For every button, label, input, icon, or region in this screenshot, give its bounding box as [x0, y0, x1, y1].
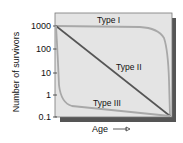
arrow-right-icon — [113, 127, 130, 131]
tick-1000: 1000 — [31, 21, 51, 31]
tick-1: 1 — [46, 90, 51, 100]
tick-0.1: 0.1 — [38, 112, 51, 122]
tick-100: 100 — [36, 44, 51, 54]
survivorship-chart: 1000 100 10 1 0.1 Type I Type II Type II… — [0, 0, 183, 143]
type2-label: Type II — [116, 62, 142, 72]
type1-label: Type I — [97, 15, 120, 25]
y-axis-title: Number of survivors — [11, 31, 21, 112]
type3-label: Type III — [93, 98, 121, 108]
tick-10: 10 — [41, 68, 51, 78]
x-axis-title: Age — [92, 124, 108, 134]
